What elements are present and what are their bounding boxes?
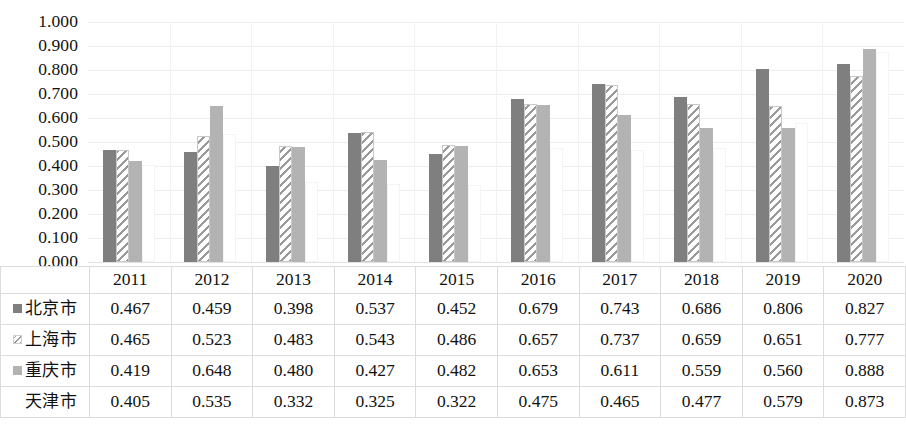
bar-重庆市-2013 <box>292 147 305 262</box>
table-cell: 0.325 <box>334 387 416 418</box>
bar-上海市-2016 <box>524 104 537 262</box>
legend-item-上海市: 上海市 <box>1 325 90 356</box>
data-table: 2011201220132014201520162017201820192020… <box>0 266 906 418</box>
table-cell: 0.467 <box>90 294 172 325</box>
bar-重庆市-2015 <box>455 146 468 262</box>
table-cell: 0.322 <box>416 387 498 418</box>
table-cell: 0.743 <box>579 294 661 325</box>
bar-天津市-2020 <box>876 52 889 262</box>
bar-group-2018 <box>659 22 741 262</box>
table-column-header-2018: 2018 <box>661 267 743 294</box>
bar-上海市-2018 <box>687 104 700 262</box>
table-cell: 0.611 <box>579 356 661 387</box>
y-axis-tick-label: 1.000 <box>0 13 78 31</box>
table-cell: 0.465 <box>90 325 172 356</box>
table-cell: 0.475 <box>497 387 579 418</box>
table-header-row: 2011201220132014201520162017201820192020 <box>1 267 906 294</box>
bar-group-2014 <box>333 22 415 262</box>
bar-天津市-2014 <box>387 184 400 262</box>
legend-swatch-icon <box>13 335 22 344</box>
y-axis-tick-label: 0.900 <box>0 37 78 55</box>
bar-北京市-2015 <box>429 154 442 262</box>
y-axis-tick-label: 0.600 <box>0 109 78 127</box>
table-cell: 0.535 <box>171 387 253 418</box>
y-axis-tick-label: 0.300 <box>0 181 78 199</box>
bar-北京市-2018 <box>674 97 687 262</box>
table-column-header-2015: 2015 <box>416 267 498 294</box>
bar-上海市-2011 <box>116 150 129 262</box>
table-cell: 0.419 <box>90 356 172 387</box>
table-cell: 0.482 <box>416 356 498 387</box>
bar-重庆市-2019 <box>782 128 795 262</box>
bar-上海市-2019 <box>769 106 782 262</box>
bar-北京市-2016 <box>511 99 524 262</box>
chart-figure: 1.0000.9000.8000.7000.6000.5000.4000.300… <box>0 0 906 433</box>
table-column-header-2013: 2013 <box>253 267 335 294</box>
bar-重庆市-2016 <box>537 105 550 262</box>
bar-group-2016 <box>496 22 578 262</box>
legend-label: 上海市 <box>25 330 78 349</box>
bar-重庆市-2014 <box>374 160 387 262</box>
bar-group-2012 <box>170 22 252 262</box>
table-column-header-2017: 2017 <box>579 267 661 294</box>
table-row: 北京市0.4670.4590.3980.5370.4520.6790.7430.… <box>1 294 906 325</box>
bar-group-2011 <box>88 22 170 262</box>
bar-北京市-2011 <box>103 150 116 262</box>
bar-group-2020 <box>822 22 904 262</box>
table-cell: 0.737 <box>579 325 661 356</box>
bar-重庆市-2017 <box>618 115 631 262</box>
table-cell: 0.579 <box>742 387 824 418</box>
table-row: 上海市0.4650.5230.4830.5430.4860.6570.7370.… <box>1 325 906 356</box>
table-cell: 0.648 <box>171 356 253 387</box>
y-axis-tick-label: 0.200 <box>0 205 78 223</box>
bar-重庆市-2020 <box>863 49 876 262</box>
table-cell: 0.465 <box>579 387 661 418</box>
table-cell: 0.459 <box>171 294 253 325</box>
y-axis-tick-label: 0.700 <box>0 85 78 103</box>
bar-chart: 1.0000.9000.8000.7000.6000.5000.4000.300… <box>0 0 906 266</box>
table-cell: 0.827 <box>824 294 906 325</box>
table-cell: 0.427 <box>334 356 416 387</box>
table-cell: 0.477 <box>661 387 743 418</box>
table-cell: 0.686 <box>661 294 743 325</box>
legend-swatch-icon <box>13 366 22 375</box>
table-cell: 0.537 <box>334 294 416 325</box>
bar-天津市-2012 <box>223 134 236 262</box>
bar-上海市-2013 <box>279 146 292 262</box>
table-cell: 0.560 <box>742 356 824 387</box>
y-axis-tick-label: 0.400 <box>0 157 78 175</box>
bar-北京市-2013 <box>266 166 279 262</box>
bar-groups <box>88 22 904 262</box>
bar-北京市-2019 <box>756 69 769 262</box>
table-column-header-2020: 2020 <box>824 267 906 294</box>
table-cell: 0.651 <box>742 325 824 356</box>
bar-北京市-2014 <box>348 133 361 262</box>
bar-上海市-2012 <box>197 136 210 262</box>
table-column-header-2012: 2012 <box>171 267 253 294</box>
legend-label: 天津市 <box>25 392 78 411</box>
bar-天津市-2017 <box>631 150 644 262</box>
bar-group-2017 <box>578 22 660 262</box>
bar-北京市-2012 <box>184 152 197 262</box>
bar-天津市-2013 <box>305 182 318 262</box>
table-cell: 0.873 <box>824 387 906 418</box>
legend-item-天津市: 天津市 <box>1 387 90 418</box>
table-column-header-2019: 2019 <box>742 267 824 294</box>
table-cell: 0.777 <box>824 325 906 356</box>
table-cell: 0.543 <box>334 325 416 356</box>
bar-上海市-2020 <box>850 76 863 262</box>
legend-label: 北京市 <box>25 299 78 318</box>
legend-label: 重庆市 <box>25 361 78 380</box>
bar-北京市-2017 <box>592 84 605 262</box>
bar-group-2015 <box>414 22 496 262</box>
table-cell: 0.398 <box>253 294 335 325</box>
legend-item-北京市: 北京市 <box>1 294 90 325</box>
table-row: 天津市0.4050.5350.3320.3250.3220.4750.4650.… <box>1 387 906 418</box>
table-cell: 0.888 <box>824 356 906 387</box>
y-axis-tick-label: 0.500 <box>0 133 78 151</box>
table-column-header-2014: 2014 <box>334 267 416 294</box>
bar-重庆市-2011 <box>129 161 142 262</box>
bar-重庆市-2018 <box>700 128 713 262</box>
legend-swatch-icon <box>13 304 22 313</box>
legend-swatch-icon <box>13 397 22 406</box>
